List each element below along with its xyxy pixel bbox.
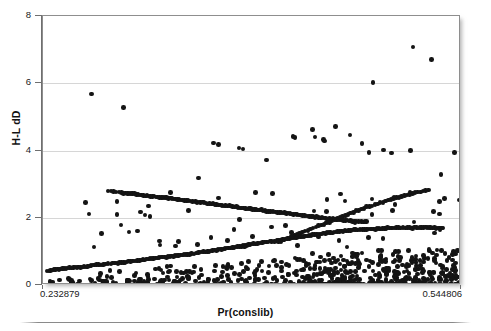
data-point bbox=[211, 141, 216, 146]
data-point bbox=[366, 235, 371, 240]
y-tick-mark-6 bbox=[35, 82, 41, 83]
data-point bbox=[355, 252, 360, 257]
data-point bbox=[337, 238, 342, 243]
data-point bbox=[134, 271, 139, 276]
data-point bbox=[392, 269, 397, 274]
data-point bbox=[260, 269, 265, 274]
data-point bbox=[92, 245, 97, 250]
data-point bbox=[375, 202, 380, 207]
data-point bbox=[137, 281, 142, 283]
x-tick-label-0: 0.232879 bbox=[40, 289, 80, 299]
data-point bbox=[389, 151, 394, 156]
data-point bbox=[421, 253, 426, 258]
data-point bbox=[69, 280, 74, 283]
data-point bbox=[229, 265, 234, 270]
y-axis-line bbox=[41, 15, 42, 285]
data-point bbox=[418, 190, 423, 195]
data-point bbox=[279, 239, 284, 244]
data-point bbox=[413, 190, 418, 195]
data-point bbox=[364, 204, 369, 209]
data-point bbox=[383, 259, 388, 264]
data-point bbox=[247, 276, 252, 281]
data-point bbox=[367, 150, 372, 155]
data-point bbox=[176, 239, 181, 244]
data-point bbox=[152, 277, 157, 282]
data-point bbox=[392, 195, 397, 200]
data-point bbox=[437, 212, 442, 217]
data-point bbox=[119, 223, 124, 228]
gridline-y-2 bbox=[43, 218, 459, 219]
data-point bbox=[427, 249, 432, 254]
data-point bbox=[402, 193, 407, 198]
data-point bbox=[406, 248, 411, 253]
data-point bbox=[264, 158, 269, 163]
data-point bbox=[342, 264, 347, 269]
data-point bbox=[341, 280, 346, 283]
data-point bbox=[195, 242, 200, 247]
data-point bbox=[138, 210, 143, 215]
data-point bbox=[451, 249, 456, 254]
data-point bbox=[428, 272, 433, 277]
data-point bbox=[105, 282, 110, 283]
data-point bbox=[121, 105, 126, 110]
data-point bbox=[229, 280, 234, 283]
data-point bbox=[295, 257, 300, 262]
data-point bbox=[384, 277, 389, 282]
data-point bbox=[381, 236, 386, 241]
data-point bbox=[403, 282, 408, 283]
data-point bbox=[148, 214, 153, 219]
data-point bbox=[250, 234, 255, 239]
y-tick-label-8: 8 bbox=[5, 10, 31, 19]
data-point bbox=[101, 279, 106, 283]
data-point bbox=[183, 281, 188, 283]
data-point bbox=[312, 280, 317, 283]
data-point bbox=[398, 279, 403, 283]
data-point bbox=[295, 243, 300, 248]
data-point bbox=[378, 258, 383, 263]
data-point bbox=[418, 280, 423, 283]
data-point bbox=[306, 228, 311, 233]
gridline-y-4 bbox=[43, 151, 459, 152]
data-point bbox=[376, 248, 381, 253]
gridline-y-6 bbox=[43, 83, 459, 84]
data-point bbox=[432, 231, 437, 236]
data-point bbox=[192, 264, 197, 269]
data-point bbox=[212, 278, 217, 283]
data-point bbox=[311, 226, 316, 231]
data-point bbox=[404, 264, 409, 269]
data-point bbox=[158, 243, 163, 248]
data-point bbox=[128, 279, 133, 283]
data-point bbox=[362, 269, 367, 274]
data-point bbox=[241, 269, 246, 274]
data-point bbox=[83, 200, 88, 205]
data-point bbox=[329, 261, 334, 266]
data-point bbox=[455, 248, 459, 253]
data-point bbox=[381, 200, 386, 205]
data-point bbox=[350, 254, 355, 259]
data-point bbox=[199, 267, 204, 272]
data-point bbox=[319, 278, 324, 283]
data-point bbox=[274, 263, 279, 268]
data-point bbox=[367, 264, 372, 269]
data-point bbox=[216, 142, 221, 147]
data-point bbox=[377, 275, 382, 280]
data-point bbox=[275, 278, 280, 283]
data-point bbox=[146, 277, 151, 282]
data-point bbox=[269, 282, 274, 283]
data-point bbox=[348, 211, 353, 216]
data-point bbox=[370, 197, 375, 202]
data-point bbox=[357, 262, 362, 267]
data-point bbox=[89, 278, 94, 283]
data-point bbox=[397, 195, 402, 200]
data-point bbox=[242, 245, 247, 250]
data-point bbox=[387, 281, 392, 283]
data-point bbox=[453, 261, 458, 266]
data-point bbox=[288, 280, 293, 283]
data-point bbox=[402, 270, 407, 275]
data-point bbox=[371, 80, 376, 85]
data-point bbox=[357, 277, 362, 282]
data-point bbox=[421, 269, 426, 274]
data-point bbox=[301, 267, 306, 272]
data-point bbox=[360, 251, 365, 256]
data-point bbox=[433, 281, 438, 283]
